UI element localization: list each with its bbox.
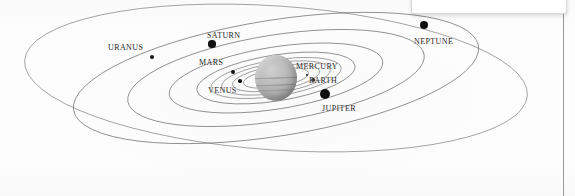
planet-label-saturn: SATURN <box>207 31 241 40</box>
planet-label-earth: EARTH <box>309 76 337 85</box>
sun-body <box>255 55 297 101</box>
planet-dot-venus[interactable] <box>238 79 242 83</box>
planet-label-mercury: MERCURY <box>296 62 338 71</box>
planet-dot-neptune[interactable] <box>420 21 428 29</box>
planet-label-jupiter: JUPITER <box>322 104 356 113</box>
top-panel[interactable] <box>411 0 567 14</box>
planet-label-mars: MARS <box>199 58 223 67</box>
orbit-ellipses <box>0 0 575 196</box>
sun-bands <box>255 55 297 101</box>
solar-system-diagram: MERCURYVENUSEARTHMARSJUPITERSATURNURANUS… <box>0 0 575 196</box>
planet-label-uranus: URANUS <box>108 43 143 52</box>
planet-label-neptune: NEPTUNE <box>414 37 453 46</box>
right-vertical-rule <box>563 11 564 196</box>
planet-label-venus: VENUS <box>208 86 237 95</box>
planet-dot-jupiter[interactable] <box>320 89 330 99</box>
planet-dot-saturn[interactable] <box>208 40 215 47</box>
